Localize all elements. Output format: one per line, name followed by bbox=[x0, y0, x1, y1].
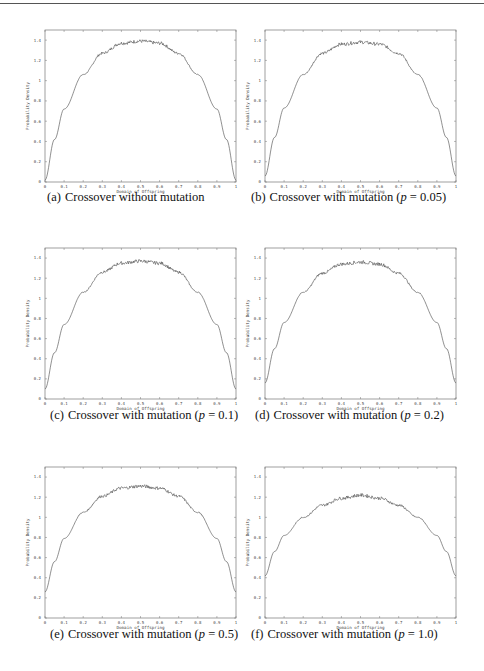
x-tick-label: 0 bbox=[264, 620, 267, 625]
x-tick-label: 0.3 bbox=[319, 620, 327, 625]
plot-frame bbox=[265, 467, 456, 618]
caption-param: (p = 1.0) bbox=[391, 627, 438, 641]
mutation-rate: 1.0 bbox=[418, 627, 434, 641]
y-tick-label: 1.2 bbox=[254, 495, 262, 500]
y-tick-label: 0 bbox=[259, 615, 262, 620]
y-tick-label: 0.4 bbox=[254, 575, 262, 580]
x-tick-label: 0.7 bbox=[395, 620, 403, 625]
x-tick-label: 0.9 bbox=[433, 620, 441, 625]
x-tick-label: 1 bbox=[455, 620, 458, 625]
y-axis-title: Probability Density bbox=[245, 518, 250, 566]
caption-f: (f)Crossover with mutation (p = 1.0) bbox=[251, 627, 438, 642]
caption-tag: (f) bbox=[251, 627, 264, 641]
line-chart-f: 00.10.20.30.40.50.60.70.80.9100.20.40.60… bbox=[0, 0, 484, 671]
y-tick-label: 0.6 bbox=[254, 555, 262, 560]
x-tick-label: 0.8 bbox=[414, 620, 422, 625]
x-tick-label: 0.1 bbox=[280, 620, 288, 625]
density-curve bbox=[265, 493, 456, 575]
caption-text: Crossover with mutation bbox=[268, 627, 392, 641]
y-tick-label: 1.4 bbox=[254, 474, 262, 479]
x-tick-label: 0.2 bbox=[300, 620, 308, 625]
y-tick-label: 0.8 bbox=[254, 535, 262, 540]
y-tick-label: 1 bbox=[259, 515, 262, 520]
y-tick-label: 0.2 bbox=[254, 595, 262, 600]
